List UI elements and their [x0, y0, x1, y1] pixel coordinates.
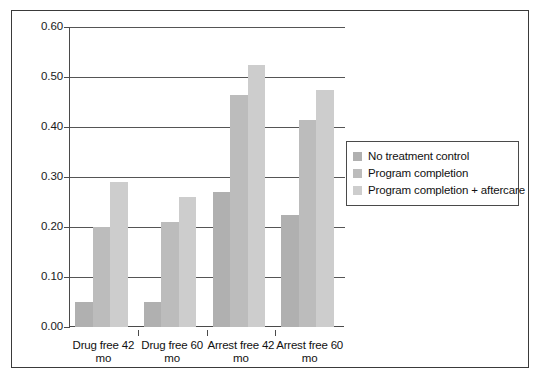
- y-axis-tick-labels: 0.600.500.400.300.200.100.00: [12, 27, 63, 327]
- legend-item: No treatment control: [353, 148, 511, 164]
- bar: [248, 65, 266, 328]
- y-axis-tick-label: 0.10: [17, 271, 63, 283]
- bar: [281, 215, 299, 328]
- legend-item: Program completion: [353, 165, 511, 181]
- bar: [230, 95, 248, 328]
- y-axis-tick-label: 0.30: [17, 171, 63, 183]
- legend-item-label: No treatment control: [368, 150, 469, 162]
- legend-swatch-icon: [353, 186, 362, 195]
- x-axis-category-label-line: Arrest free 60: [269, 339, 350, 352]
- figure-frame: 0.600.500.400.300.200.100.00 Drug free 4…: [11, 10, 529, 368]
- y-axis-tick-label: 0.60: [17, 21, 63, 33]
- bar: [179, 197, 197, 327]
- x-axis-category-label-line: mo: [269, 352, 350, 365]
- bar: [161, 222, 179, 327]
- bars-layer: [69, 27, 344, 327]
- bar: [110, 182, 128, 327]
- x-axis-tick: [275, 330, 276, 336]
- chart-legend: No treatment controlProgram completionPr…: [346, 141, 519, 206]
- bar: [144, 302, 162, 327]
- y-axis-tick: [64, 327, 70, 328]
- y-axis-tick-label: 0.00: [17, 321, 63, 333]
- bar-chart: 0.600.500.400.300.200.100.00 Drug free 4…: [12, 11, 530, 369]
- y-axis-tick-label: 0.40: [17, 121, 63, 133]
- legend-item-label: Program completion + aftercare: [368, 184, 525, 196]
- y-axis-tick-label: 0.20: [17, 221, 63, 233]
- x-axis-tick: [207, 330, 208, 336]
- legend-item-label: Program completion: [368, 167, 468, 179]
- bar: [213, 192, 231, 327]
- bar: [316, 90, 334, 328]
- legend-swatch-icon: [353, 152, 362, 161]
- x-axis-tick-labels: Drug free 42moDrug free 60moArrest free …: [69, 330, 344, 370]
- x-axis-tick: [138, 330, 139, 336]
- bar: [93, 227, 111, 327]
- legend-swatch-icon: [353, 169, 362, 178]
- x-axis-category-label: Arrest free 60mo: [269, 339, 350, 365]
- legend-item: Program completion + aftercare: [353, 182, 511, 198]
- bar: [75, 302, 93, 327]
- bar: [299, 120, 317, 328]
- y-axis-tick-label: 0.50: [17, 71, 63, 83]
